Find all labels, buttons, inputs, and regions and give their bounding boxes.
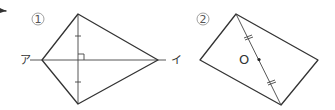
right-angle-marker [78,54,84,60]
center-label: O [239,52,249,67]
arrow-icon [0,8,6,13]
label-i: イ [171,54,182,67]
equal-tick-lower [267,80,276,85]
figure-2-number: 2 [200,13,207,26]
kite-outline [42,14,158,104]
figure-1-number: 1 [35,13,42,26]
diagram-canvas: 1 ア イ 2 O [0,0,335,110]
center-point [257,58,260,61]
figure-1: 1 ア イ [20,13,182,104]
label-a: ア [20,54,31,67]
figure-2: 2 O [197,13,318,105]
